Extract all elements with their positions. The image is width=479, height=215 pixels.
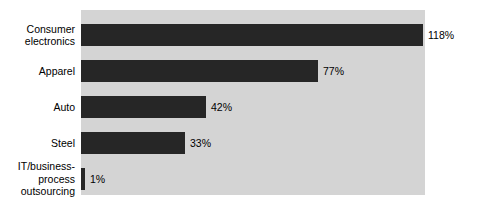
bar-apparel — [81, 60, 318, 82]
bar-row: Consumer electronics 118% — [0, 17, 479, 53]
category-label-line: Auto — [53, 101, 75, 114]
bar-value-label: 42% — [211, 89, 232, 125]
category-label-line: IT/business- — [18, 160, 75, 173]
bar-row: Apparel 77% — [0, 53, 479, 89]
category-label-line: Steel — [51, 137, 75, 150]
bar-it-business-process-outsourcing — [81, 168, 85, 190]
bar-auto — [81, 96, 206, 118]
bar-chart-figure: Consumer electronics 118% Apparel 77% Au… — [0, 0, 479, 215]
category-label-line: outsourcing — [21, 185, 75, 198]
bar-value-label: 1% — [90, 161, 105, 197]
bar-row: IT/business- process outsourcing 1% — [0, 161, 479, 197]
bar-row: Auto 42% — [0, 89, 479, 125]
category-label-line: Consumer — [27, 23, 75, 36]
bar-row: Steel 33% — [0, 125, 479, 161]
bar-value-label: 33% — [190, 125, 211, 161]
category-label: IT/business- process outsourcing — [0, 161, 75, 197]
category-label-line: electronics — [25, 35, 75, 48]
category-label: Consumer electronics — [0, 17, 75, 53]
category-label: Auto — [0, 89, 75, 125]
category-label-line: process — [38, 173, 75, 186]
category-label: Apparel — [0, 53, 75, 89]
bar-steel — [81, 132, 185, 154]
category-label: Steel — [0, 125, 75, 161]
category-label-line: Apparel — [39, 65, 75, 78]
bar-consumer-electronics — [81, 24, 423, 46]
bar-value-label: 77% — [323, 53, 344, 89]
bar-value-label: 118% — [428, 17, 454, 53]
